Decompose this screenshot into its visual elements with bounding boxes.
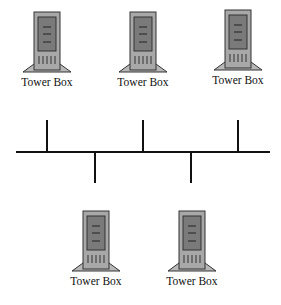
drop-line-bottom-1 (94, 152, 96, 183)
drop-line-top-3 (237, 120, 239, 152)
tower-computer-icon (164, 210, 220, 272)
drop-line-top-2 (142, 120, 144, 152)
tower-computer-icon (68, 210, 124, 272)
node-bottom-1: Tower Box (61, 210, 131, 287)
node-label: Tower Box (108, 76, 178, 88)
node-label: Tower Box (61, 275, 131, 287)
tower-computer-icon (115, 11, 171, 73)
node-label: Tower Box (157, 275, 227, 287)
node-top-2: Tower Box (108, 11, 178, 88)
node-top-3: Tower Box (203, 9, 273, 86)
node-label: Tower Box (12, 76, 82, 88)
tower-computer-icon (19, 11, 75, 73)
drop-line-bottom-2 (190, 152, 192, 183)
node-top-1: Tower Box (12, 11, 82, 88)
node-label: Tower Box (203, 74, 273, 86)
drop-line-top-1 (46, 120, 48, 152)
node-bottom-2: Tower Box (157, 210, 227, 287)
tower-computer-icon (210, 9, 266, 71)
